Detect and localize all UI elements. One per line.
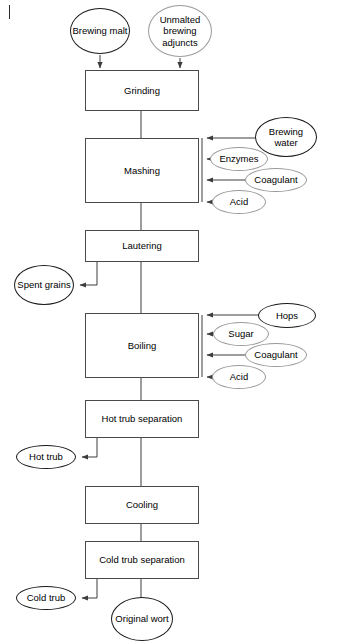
input-node-acid-mashing[interactable]: Acid [212,190,266,214]
input-node-coagulant-boiling[interactable]: Coagulant [245,343,307,367]
output-node-cold-trub[interactable]: Cold trub [16,586,76,610]
input-label-acid-boiling: Acid [230,371,248,383]
arrow-coldtrub-sep-to-cold-trub [82,579,97,598]
input-label-coagulant-mashing: Coagulant [254,174,297,186]
output-node-hot-trub[interactable]: Hot trub [16,445,76,469]
output-label-original-wort: Original wort [115,613,168,625]
process-box-hot-trub-separation[interactable]: Hot trub separation [85,400,199,438]
process-box-cold-trub-separation[interactable]: Cold trub separation [85,541,199,579]
output-label-cold-trub: Cold trub [27,592,66,604]
input-node-brewing-water[interactable]: Brewing water [255,117,317,157]
input-node-acid-boiling[interactable]: Acid [212,365,266,389]
process-box-cooling[interactable]: Cooling [85,486,199,524]
output-node-spent-grains[interactable]: Spent grains [14,265,74,305]
input-node-hops[interactable]: Hops [258,303,316,328]
process-box-grinding[interactable]: Grinding [85,70,199,111]
process-label-mashing: Mashing [124,165,160,177]
arrow-lautering-to-spent-grains [80,262,97,285]
arrow-hottrub-sep-to-hot-trub [82,438,97,457]
input-label-enzymes: Enzymes [219,153,258,165]
process-label-cold-trub-separation: Cold trub separation [99,554,185,566]
process-box-boiling[interactable]: Boiling [85,313,199,378]
input-node-unmalted-brewing-adjuncts[interactable]: Unmalted brewing adjuncts [148,5,212,57]
process-label-boiling: Boiling [128,340,157,352]
process-label-lautering: Lautering [122,240,162,252]
input-node-sugar[interactable]: Sugar [213,322,269,346]
input-label-unmalted-brewing-adjuncts: Unmalted brewing adjuncts [149,14,211,49]
output-node-original-wort[interactable]: Original wort [111,597,173,641]
process-box-mashing[interactable]: Mashing [85,138,199,203]
input-label-acid-mashing: Acid [230,196,248,208]
process-box-lautering[interactable]: Lautering [85,230,199,262]
input-node-enzymes[interactable]: Enzymes [210,147,268,171]
input-label-coagulant-boiling: Coagulant [254,349,297,361]
process-label-hot-trub-separation: Hot trub separation [102,413,183,425]
input-label-brewing-malt: Brewing malt [73,25,128,37]
input-node-brewing-malt[interactable]: Brewing malt [70,8,130,54]
process-label-grinding: Grinding [124,85,160,97]
output-label-hot-trub: Hot trub [29,451,63,463]
brewing-process-flowchart: Grinding Mashing Lautering Boiling Hot t… [0,0,338,644]
input-label-brewing-water: Brewing water [256,126,316,149]
input-node-coagulant-mashing[interactable]: Coagulant [245,168,307,192]
output-label-spent-grains: Spent grains [17,279,70,291]
process-label-cooling: Cooling [126,499,158,511]
input-label-hops: Hops [276,310,298,322]
input-label-sugar: Sugar [228,328,253,340]
